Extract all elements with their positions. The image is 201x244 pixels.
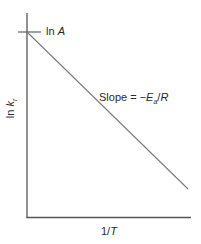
arrhenius-line — [27, 32, 188, 189]
slope-label-prefix: Slope = − — [99, 91, 146, 103]
y-axis-label-prefix: ln — [4, 107, 16, 119]
intercept-label: ln A — [46, 25, 65, 37]
y-axis-label: ln kr — [4, 99, 21, 118]
x-axis-label-prefix: 1/ — [101, 225, 110, 237]
intercept-label-var: A — [58, 25, 65, 37]
arrhenius-plot — [0, 0, 201, 244]
slope-label: Slope = −Ea/R — [99, 91, 168, 108]
intercept-label-prefix: ln — [46, 25, 58, 37]
slope-label-r: R — [160, 91, 168, 103]
y-axis-label-sub: r — [11, 99, 18, 101]
y-axis-label-var: k — [4, 101, 16, 107]
x-axis-label-var: T — [110, 225, 117, 237]
x-axis-label: 1/T — [101, 225, 117, 237]
